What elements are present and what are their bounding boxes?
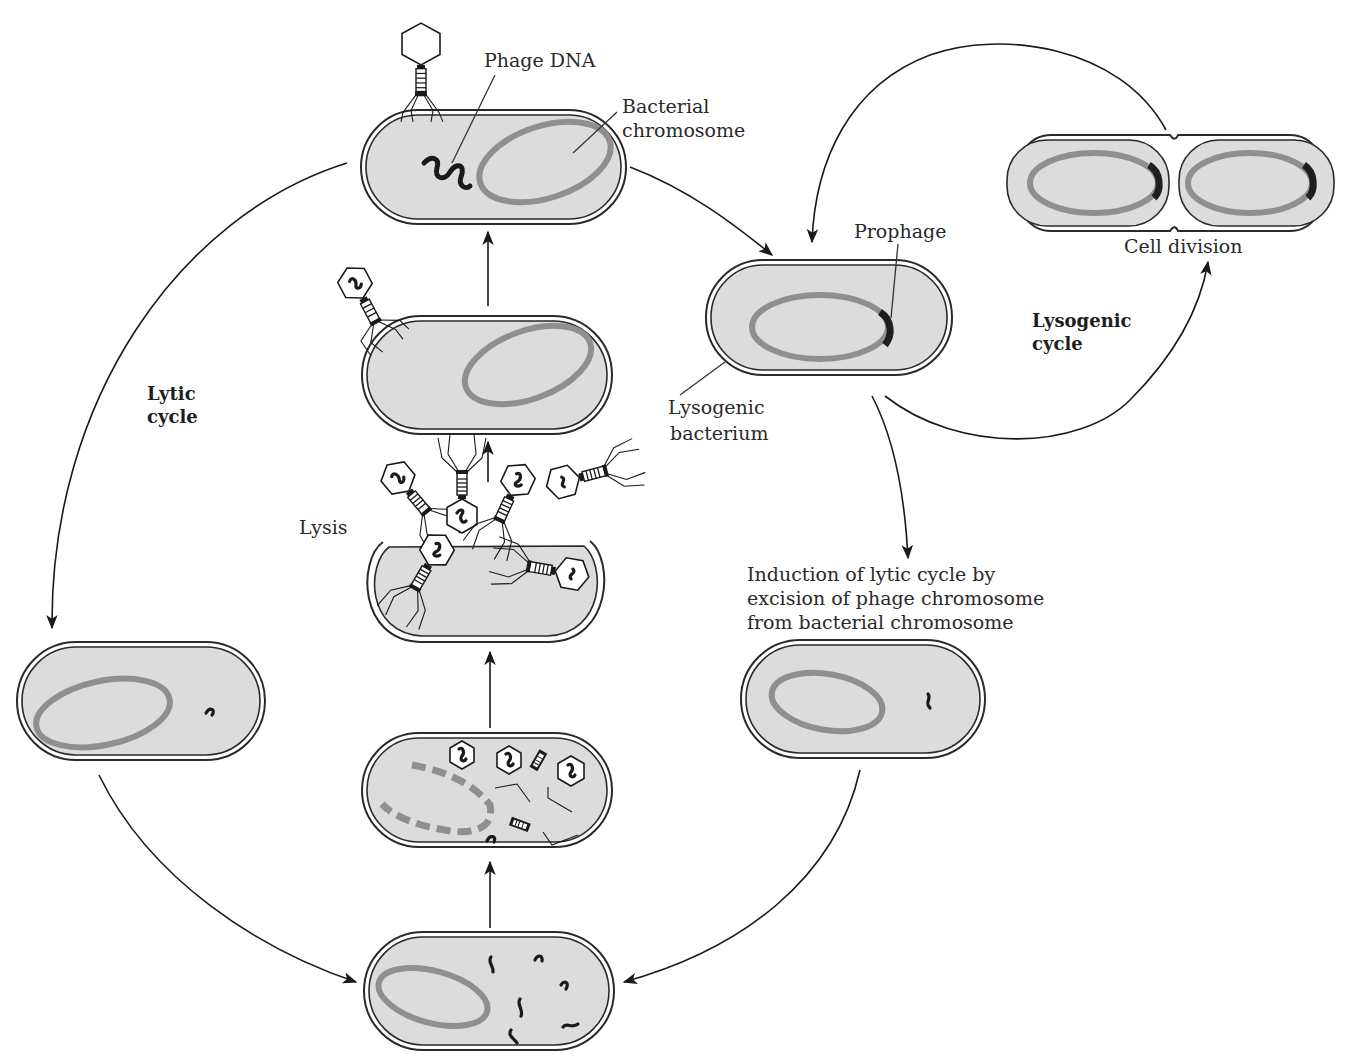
label-lysogenic-bacterium-1: Lysogenic — [668, 396, 765, 418]
label-induction-2: excision of phage chromosome — [747, 587, 1044, 609]
label-lytic-cycle-2: cycle — [147, 406, 198, 427]
label-phage-dna: Phage DNA — [484, 49, 596, 71]
cell-induction — [741, 640, 985, 758]
label-lysis: Lysis — [299, 516, 348, 538]
leader-lysogenic-bacterium — [680, 362, 725, 395]
label-lysogenic-cycle-2: cycle — [1032, 333, 1083, 354]
arrow-left-to-replication — [99, 775, 356, 982]
cell-dividing — [1007, 135, 1334, 231]
label-lysogenic-cycle-1: Lysogenic — [1032, 310, 1132, 331]
label-prophage: Prophage — [854, 220, 946, 242]
cell-phage-dna-free — [17, 642, 265, 760]
label-lytic-cycle-1: Lytic — [147, 383, 196, 404]
arrow-lytic-arc — [52, 163, 347, 628]
cell-lysogenic-bacterium — [706, 260, 952, 375]
cell-replication — [364, 932, 614, 1050]
label-lysogenic-bacterium-2: bacterium — [670, 422, 768, 444]
cell-lysis — [367, 434, 648, 642]
arrow-induction-to-replication — [624, 770, 860, 982]
label-bacterial-chromosome-2: chromosome — [622, 119, 745, 141]
label-induction-3: from bacterial chromosome — [747, 611, 1014, 633]
label-induction-1: Induction of lytic cycle by — [747, 563, 995, 585]
label-bacterial-chromosome-1: Bacterial — [622, 95, 709, 117]
phage-life-cycle-diagram: Phage DNA Bacterial chromosome Lysis — [0, 0, 1368, 1064]
attached-phage-icon — [401, 23, 443, 122]
released-phage-icon — [540, 438, 648, 510]
arrow-to-induction — [872, 396, 908, 558]
arrow-to-lysogenic — [630, 167, 772, 255]
released-phage-icon — [438, 434, 486, 533]
label-cell-division: Cell division — [1124, 235, 1243, 257]
cell-assembly — [362, 733, 612, 847]
cell-new-infection — [328, 256, 612, 434]
